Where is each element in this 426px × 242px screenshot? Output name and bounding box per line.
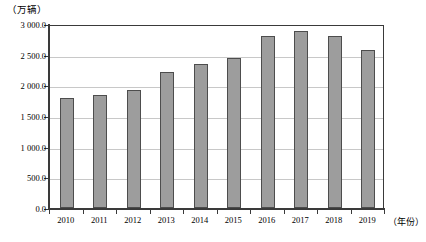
bar-2015 (227, 58, 241, 208)
y-tick-label: 500.0 (27, 173, 46, 183)
bar-2017 (294, 31, 308, 208)
y-axis-unit-label: （万辆） (7, 2, 47, 16)
x-tick-mark (384, 210, 385, 214)
x-tick-mark (351, 210, 352, 214)
x-tick-label-2012: 2012 (124, 215, 141, 225)
y-tick-label: 1 000.0 (21, 143, 47, 153)
x-tick-label-2013: 2013 (158, 215, 175, 225)
y-tick-label: 3 000.0 (21, 20, 47, 30)
x-tick-label-2016: 2016 (258, 215, 275, 225)
x-tick-mark (284, 210, 285, 214)
x-tick-mark (150, 210, 151, 214)
y-tick-label: 0.0 (35, 204, 46, 214)
x-tick-label-2014: 2014 (191, 215, 208, 225)
x-tick-mark (83, 210, 84, 214)
bars-layer (50, 26, 383, 208)
x-tick-label-2010: 2010 (57, 215, 74, 225)
plot-area (49, 25, 384, 209)
x-tick-mark (116, 210, 117, 214)
bar-2016 (261, 36, 275, 208)
bar-2014 (194, 64, 208, 208)
y-tick-label: 1 500.0 (21, 112, 47, 122)
x-tick-label-2015: 2015 (225, 215, 242, 225)
x-tick-mark (183, 210, 184, 214)
x-tick-mark (217, 210, 218, 214)
y-tick-label: 2 000.0 (21, 81, 47, 91)
x-tick-label-2019: 2019 (359, 215, 376, 225)
x-tick-mark (250, 210, 251, 214)
x-tick-label-2011: 2011 (91, 215, 108, 225)
bar-2012 (127, 90, 141, 208)
x-axis-unit-label: （年份） (388, 215, 424, 228)
bar-2010 (60, 98, 74, 208)
bar-2011 (93, 95, 107, 208)
y-tick-label: 2 500.0 (21, 51, 47, 61)
x-tick-label-2017: 2017 (292, 215, 309, 225)
bar-2019 (361, 50, 375, 208)
bar-2013 (160, 72, 174, 208)
bar-2018 (328, 36, 342, 208)
bar-chart: （万辆） 0.0500.01 000.01 500.02 000.02 500.… (0, 0, 426, 242)
x-tick-mark (49, 210, 50, 214)
x-tick-mark (317, 210, 318, 214)
x-tick-label-2018: 2018 (325, 215, 342, 225)
